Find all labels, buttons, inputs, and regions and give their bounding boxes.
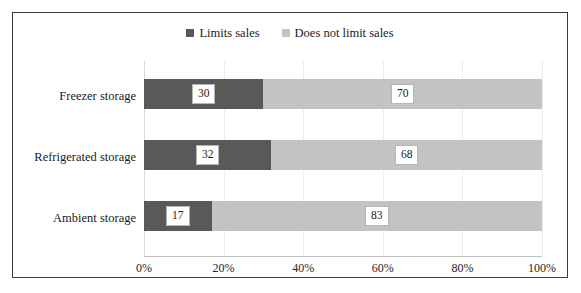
x-axis-line [144,256,542,257]
legend-item-limits-sales[interactable]: Limits sales [186,27,259,40]
bar-segment-limits-sales-ambient[interactable]: 17 [144,201,212,231]
tick-label-80: 80% [451,262,473,274]
table-row: 32 68 [144,140,542,170]
chart-frame: Limits sales Does not limit sales Freeze… [12,12,568,278]
legend-label-limits-sales: Limits sales [199,27,259,40]
category-label-ambient-storage: Ambient storage [12,212,136,225]
bar-segment-does-not-limit-sales-refrigerated[interactable]: 68 [271,140,542,170]
x-axis-tick-labels: 0% 20% 40% 60% 80% 100% [144,262,542,282]
bar-value-label: 30 [192,84,216,105]
bar-value-label: 83 [365,206,389,227]
legend-swatch-limits-sales [186,29,194,37]
bar-segment-does-not-limit-sales-ambient[interactable]: 83 [212,201,542,231]
bar-value-label: 32 [196,145,220,166]
tick-label-100: 100% [528,262,556,274]
bar-value-label: 68 [395,145,419,166]
legend-label-does-not-limit-sales: Does not limit sales [295,27,394,40]
tick-label-20: 20% [213,262,235,274]
table-row: 30 70 [144,79,542,109]
chart-legend: Limits sales Does not limit sales [13,27,567,40]
bar-segment-limits-sales-refrigerated[interactable]: 32 [144,140,271,170]
bar-value-label: 17 [166,206,190,227]
legend-swatch-does-not-limit-sales [282,29,290,37]
tick-label-60: 60% [372,262,394,274]
tick-label-0: 0% [136,262,152,274]
gridline-100 [542,61,543,257]
category-label-refrigerated-storage: Refrigerated storage [12,151,136,164]
bar-segment-limits-sales-freezer[interactable]: 30 [144,79,263,109]
category-label-freezer-storage: Freezer storage [12,90,136,103]
table-row: 17 83 [144,201,542,231]
legend-item-does-not-limit-sales[interactable]: Does not limit sales [282,27,394,40]
bar-segment-does-not-limit-sales-freezer[interactable]: 70 [263,79,542,109]
tick-label-40: 40% [292,262,314,274]
plot-area: 30 70 32 68 17 83 [144,61,542,257]
bar-value-label: 70 [391,84,415,105]
category-axis-labels: Freezer storage Refrigerated storage Amb… [13,61,136,257]
